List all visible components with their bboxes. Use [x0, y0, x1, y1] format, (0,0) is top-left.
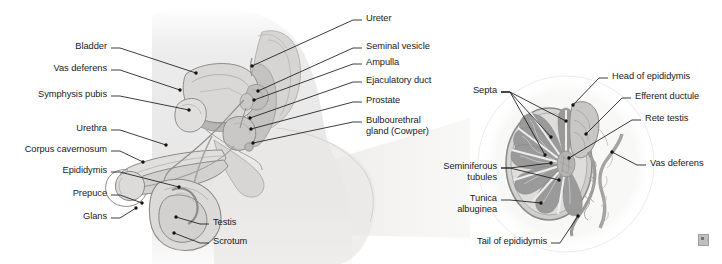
label-ejaculatory-duct: Ejaculatory duct — [366, 75, 431, 86]
leader-glans — [111, 208, 136, 218]
label-glans: Glans — [83, 211, 107, 222]
right-panel-illustration — [478, 76, 654, 252]
label-tail-of-epididymis: Tail of epididymis — [477, 236, 547, 247]
label-vas-deferens: Vas deferens — [54, 63, 108, 74]
anatomy-figure: BladderVas deferensSymphysis pubisUrethr… — [0, 0, 722, 264]
label-symphysis-pubis: Symphysis pubis — [38, 89, 107, 100]
label-ampulla: Ampulla — [366, 57, 399, 68]
leader-dot-ampulla — [252, 98, 255, 101]
leader-dot-vas-deferens — [178, 88, 181, 91]
label-efferent-ductule: Efferent ductule — [635, 91, 699, 102]
leader-dot-symphysis-pubis — [187, 108, 190, 111]
leader-dot-head-of-epididymis — [571, 103, 574, 106]
rete-testis — [557, 151, 575, 177]
leader-dot-seminiferous-tubules — [557, 178, 560, 181]
leader-dot-seminiferous-tubules — [549, 161, 552, 164]
leader-dot-vas-deferens-r — [610, 150, 613, 153]
leader-dot-septa — [564, 119, 567, 122]
leader-dot-septa — [543, 153, 546, 156]
label-prepuce: Prepuce — [73, 188, 107, 199]
leader-dot-ureter — [250, 64, 253, 67]
label-corpus-cavernosum: Corpus cavernosum — [25, 144, 107, 155]
leader-dot-seminal-vesicle — [256, 89, 259, 92]
label-seminal-vesicle: Seminal vesicle — [366, 41, 430, 52]
leader-dot-corpus-cavernosum — [141, 160, 144, 163]
label-urethra: Urethra — [76, 123, 107, 134]
label-seminiferous-tubules: Seminiferous tubules — [443, 161, 497, 182]
label-bladder: Bladder — [75, 41, 107, 52]
leader-dot-rete-testis — [567, 156, 570, 159]
label-septa: Septa — [473, 85, 497, 96]
leader-dot-bulbourethral — [251, 141, 254, 144]
leader-dot-urethra — [164, 143, 167, 146]
leader-dot-tunica-albuginea — [539, 201, 542, 204]
label-prostate: Prostate — [366, 95, 400, 106]
leader-dot-glans — [134, 206, 137, 209]
label-ureter: Ureter — [366, 13, 392, 24]
leader-dot-epididymis — [177, 185, 180, 188]
label-vas-deferens-r: Vas deferens — [650, 158, 704, 169]
leader-dot-ejaculatory-duct — [248, 116, 251, 119]
publisher-watermark-icon — [698, 234, 709, 246]
leader-corpus-cavernosum — [111, 151, 143, 162]
leader-dot-bladder — [194, 71, 197, 74]
label-tunica-albuginea: Tunica albuginea — [457, 193, 497, 214]
label-head-of-epididymis: Head of epididymis — [612, 71, 690, 82]
leader-dot-prepuce — [140, 201, 143, 204]
label-testis: Testis — [213, 217, 236, 228]
anatomy-illustration — [0, 0, 722, 264]
leader-dot-prostate — [249, 127, 252, 130]
left-panel-illustration — [106, 6, 376, 264]
label-rete-testis: Rete testis — [645, 113, 688, 124]
glans — [115, 171, 144, 200]
label-bulbourethral: Bulbourethral gland (Cowper) — [366, 115, 429, 136]
leader-dot-efferent-ductule — [584, 132, 587, 135]
symphysis-pubis — [175, 98, 206, 132]
label-scrotum: Scrotum — [213, 236, 247, 247]
leader-dot-testis — [174, 215, 177, 218]
label-epididymis: Epididymis — [63, 165, 107, 176]
leader-dot-tail-of-epididymis — [576, 214, 579, 217]
leader-dot-scrotum — [172, 231, 175, 234]
leader-dot-septa — [549, 135, 552, 138]
